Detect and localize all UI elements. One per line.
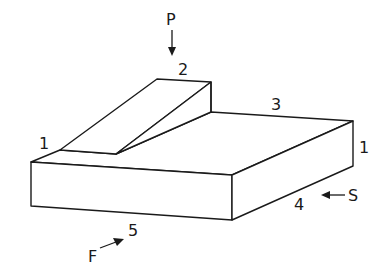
label-p: P — [166, 10, 176, 29]
force-arrow-f — [100, 238, 124, 248]
label-edge-5: 5 — [128, 221, 138, 240]
label-edge-1-left: 1 — [39, 134, 49, 153]
label-edge-2: 2 — [178, 60, 188, 79]
block-diagram: P S F 1 1 2 3 4 5 — [0, 0, 378, 267]
force-arrow-p — [168, 30, 176, 56]
label-edge-1-right: 1 — [359, 138, 369, 157]
label-s: S — [348, 186, 358, 205]
label-edge-4: 4 — [294, 195, 304, 214]
force-arrow-s — [321, 191, 345, 199]
label-edge-3: 3 — [271, 95, 281, 114]
label-f: F — [88, 247, 97, 266]
